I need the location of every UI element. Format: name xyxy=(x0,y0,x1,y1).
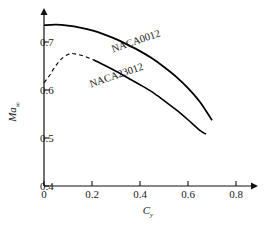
y-axis-title-main: Ma xyxy=(6,107,18,122)
x-axis-title-subscript: y xyxy=(150,211,153,219)
x-axis-ticks xyxy=(44,181,236,186)
x-tick-label-1: 0.2 xyxy=(85,188,99,200)
y-axis-title: Ma∞ xyxy=(6,102,21,122)
series-line-naca23012-dashed xyxy=(44,54,93,83)
x-tick-label-3: 0.6 xyxy=(181,188,195,200)
x-tick-label-2: 0.4 xyxy=(133,188,147,200)
chart-figure: 0 0.2 0.4 0.6 0.8 0.4 0.5 0.6 0.7 Cy Ma∞… xyxy=(0,0,268,227)
x-tick-label-4: 0.8 xyxy=(229,188,243,200)
x-axis-title: Cy xyxy=(143,204,153,219)
y-axis-title-subscript: ∞ xyxy=(14,102,22,107)
y-axis-ticks xyxy=(44,42,49,186)
